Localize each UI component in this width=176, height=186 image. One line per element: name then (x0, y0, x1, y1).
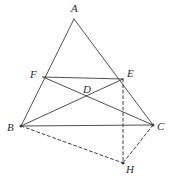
segment-bh (21, 126, 123, 163)
cevian-fc (43, 77, 153, 125)
vertex-dots-group (20, 124, 155, 165)
vertex-dot-h (122, 162, 125, 165)
vertex-label-e: E (127, 68, 134, 79)
vertex-label-h: H (126, 164, 134, 175)
side-bc (21, 125, 153, 126)
cevian-be (21, 79, 123, 126)
vertex-dot-c (152, 124, 155, 127)
segment-fe (43, 77, 123, 79)
vertex-label-d: D (83, 84, 91, 95)
side-ab (21, 19, 74, 126)
vertex-label-a: A (71, 3, 78, 14)
vertex-label-f: F (30, 69, 37, 80)
vertex-dot-b (20, 125, 23, 128)
segment-ch (123, 125, 153, 163)
vertex-label-c: C (157, 121, 164, 132)
side-ac (74, 19, 153, 125)
vertex-label-b: B (7, 122, 14, 133)
geometry-figure: ABCDEFH (0, 0, 176, 186)
